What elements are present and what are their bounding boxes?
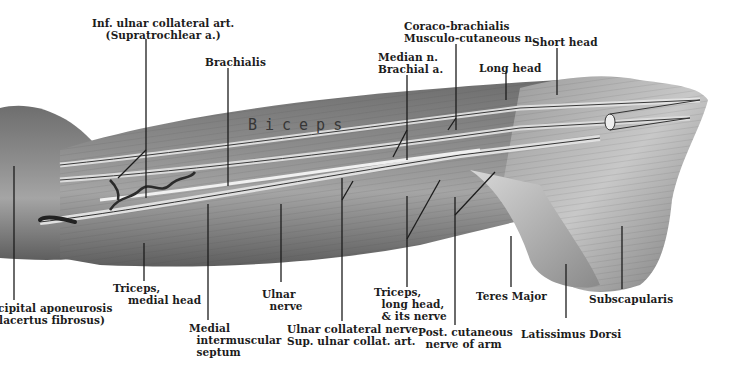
- label-coraco-brachialis: Coraco-brachialis Musculo-cutaneous n.: [404, 20, 536, 44]
- label-short-head: Short head: [532, 36, 598, 48]
- label-median-nerve-brachial-artery: Median n. Brachial a.: [378, 51, 443, 75]
- label-post-cutaneous-nerve: Post. cutaneous nerve of arm: [418, 326, 513, 350]
- label-ulnar-nerve: Ulnar nerve: [262, 288, 303, 312]
- label-triceps-long-head: Triceps, long head, & its nerve: [374, 286, 447, 322]
- anatomy-figure: Biceps Inf. ulnar collateral art. (Supra…: [0, 0, 743, 371]
- label-latissimus-dorsi: Latissimus Dorsi: [521, 328, 621, 340]
- label-inf-ulnar-collateral-artery: Inf. ulnar collateral art. (Supratrochle…: [92, 17, 234, 41]
- label-bicipital-aponeurosis: icipital aponeurosis (lacertus fibrosus): [0, 302, 112, 326]
- label-triceps-medial-head: Triceps, medial head: [113, 282, 201, 306]
- label-ulnar-collateral-nerve: Ulnar collateral nerve Sup. ulnar collat…: [287, 323, 418, 347]
- label-long-head: Long head: [479, 62, 541, 74]
- biceps-muscle-label: Biceps: [248, 116, 350, 134]
- label-subscapularis: Subscapularis: [589, 293, 673, 305]
- label-medial-intermuscular-septum: Medial intermuscular septum: [189, 322, 282, 358]
- label-teres-major: Teres Major: [476, 290, 547, 302]
- label-brachialis: Brachialis: [205, 56, 266, 68]
